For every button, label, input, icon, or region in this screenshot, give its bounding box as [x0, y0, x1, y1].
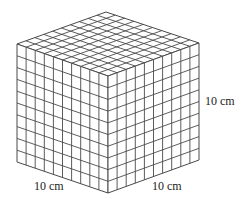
right-edge-label: 10 cm [152, 179, 182, 194]
height-label: 10 cm [205, 94, 235, 109]
left-edge-label: 10 cm [34, 179, 64, 194]
